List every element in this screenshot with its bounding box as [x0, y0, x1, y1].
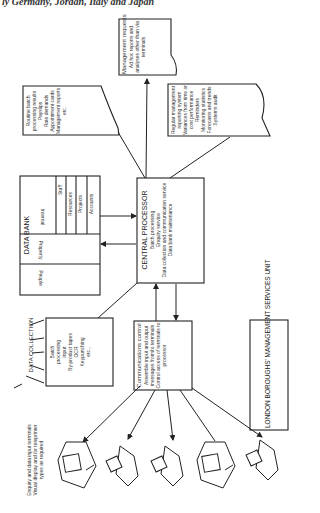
diagram-title: LONDON BOROUGHS' MANAGEMENT SERVICES UNI…	[263, 322, 273, 428]
terminal-visual-display-2	[197, 442, 235, 488]
communications-control-text: Communications control Assemble input an…	[136, 322, 167, 389]
data-bank-property: Property	[38, 236, 44, 264]
regular-reporting-text: Regular management reporting system Vari…	[170, 85, 218, 135]
data-bank-heading: DATA BANK	[22, 176, 31, 294]
terminals	[58, 440, 278, 488]
terminal-teleprinter-1	[106, 446, 138, 486]
data-collection-text: Batch processing input By-product tapes …	[49, 319, 91, 385]
data-bank-people: People	[38, 264, 44, 292]
terminals-label-group: Enquiry and data input terminals Visual …	[26, 420, 44, 500]
terminal-teleprinter-2	[151, 446, 183, 486]
terminal-visual-display-1	[58, 442, 96, 488]
data-bank-projects: Projects	[77, 176, 83, 232]
central-processor-text: CENTRAL PROCESSOR Batch processing Enqui…	[140, 178, 173, 282]
management-requests-text: Management requests Ad hoc reports and a…	[121, 20, 146, 74]
data-bank-accounts: Accounts	[88, 176, 94, 232]
data-bank-staff: Staff	[57, 176, 63, 204]
data-collection-heading: DATA COLLECTION	[28, 305, 35, 385]
routine-batch-text: Routine batch processing results Payslip…	[25, 88, 67, 134]
data-bank-resources: Resources	[67, 176, 73, 232]
data-bank-internal: Internal	[40, 200, 46, 234]
terminal-teleprinter-3	[246, 440, 278, 480]
